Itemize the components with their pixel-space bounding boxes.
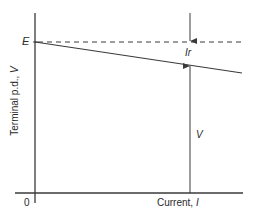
x-axis-label-symbol: I	[196, 197, 199, 208]
x-axis-label: Current, I	[157, 198, 199, 208]
ir-drop-label: Ir	[185, 48, 191, 58]
terminal-pd-graph	[0, 0, 258, 217]
y-axis-label-symbol: V	[9, 66, 20, 73]
emf-label: E	[22, 36, 29, 46]
terminal-pd-line	[35, 42, 242, 73]
origin-label: 0	[24, 198, 30, 208]
x-axis-label-text: Current,	[157, 197, 196, 208]
y-axis-label-text: Terminal p.d.,	[9, 73, 20, 136]
terminal-v-label: V	[196, 130, 203, 140]
y-axis-label: Terminal p.d., V	[10, 56, 20, 146]
